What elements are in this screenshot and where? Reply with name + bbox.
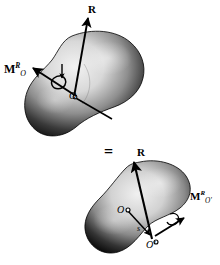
mechanics-figure: R MRO O = R MRO′ O O′ s xyxy=(0,0,220,265)
lower-moment-vector-M xyxy=(155,218,184,236)
lower-position-vector-label-s: s xyxy=(137,225,140,233)
lower-body-group xyxy=(85,161,190,253)
lower-moment-label-M: MRO′ xyxy=(190,190,212,205)
lower-moment-label-superscript: R xyxy=(200,189,205,196)
lower-origin-dot xyxy=(126,208,130,212)
upper-moment-label-base: M xyxy=(4,62,15,76)
upper-body-group xyxy=(25,18,144,136)
lower-force-label-R: R xyxy=(137,147,145,158)
lower-body-highlight-right xyxy=(138,168,182,198)
lower-rotation-curl-icon xyxy=(167,213,179,224)
upper-force-label-R: R xyxy=(88,4,96,15)
lower-origin-label-O: O xyxy=(117,205,124,215)
upper-origin-label-O: O xyxy=(69,91,76,101)
upper-moment-label-M: MRO xyxy=(4,62,26,78)
upper-body-highlight-right xyxy=(84,41,132,75)
lower-origin-prime-label: O′ xyxy=(146,240,155,250)
equivalence-equals-sign: = xyxy=(104,144,113,160)
upper-moment-label-subscript: O xyxy=(20,69,26,78)
lower-moment-label-subscript: O′ xyxy=(205,197,212,205)
lower-moment-label-base: M xyxy=(190,190,200,202)
figure-canvas xyxy=(0,0,220,265)
